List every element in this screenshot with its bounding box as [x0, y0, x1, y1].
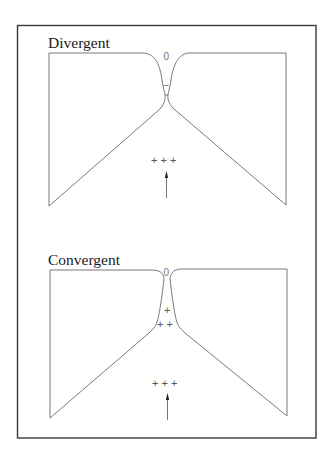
divergent-panel: Divergent 0 – + + + [48, 34, 286, 206]
divergent-title: Divergent [48, 34, 110, 51]
convergent-inner-charge-bottom: + + [157, 318, 173, 330]
convergent-throat-symbol: 0 [164, 267, 170, 278]
convergent-right-wall [170, 269, 287, 416]
convergent-charges: + + + [152, 377, 177, 389]
divergent-right-wall [168, 53, 286, 205]
divergent-left-wall [49, 53, 165, 206]
divergent-charges: + + + [151, 154, 176, 166]
convergent-inner-charge-top: + [164, 304, 170, 316]
diagram-canvas: Divergent 0 – + + + Convergent 0 + + + +… [0, 0, 328, 454]
convergent-panel: Convergent 0 + + + + + + [48, 251, 287, 420]
convergent-left-wall [50, 270, 164, 418]
divergent-throat-symbol: 0 [164, 51, 170, 62]
divergent-up-arrow-icon [165, 171, 168, 198]
convergent-title: Convergent [48, 251, 121, 268]
divergent-neck-symbol: – [163, 79, 169, 90]
convergent-up-arrow-icon [166, 393, 169, 420]
